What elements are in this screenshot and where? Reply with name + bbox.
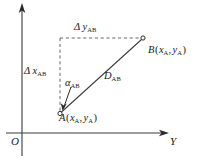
origin-label: O (11, 136, 19, 147)
delta-y-symbol: Δ y (74, 21, 87, 32)
point-b-marker (141, 36, 145, 40)
coordinate-geometry-figure: O Y Δ yAB Δ xAB DAB αAB B(xA,yA) A(xA,yA… (0, 0, 198, 160)
point-b-close-paren: ) (182, 44, 187, 55)
angle-subscript: AB (71, 82, 80, 89)
distance-line-ab (62, 40, 142, 113)
point-a-label: A(xA,yA) (59, 113, 97, 124)
delta-y-label: Δ yAB (74, 22, 97, 33)
figure-canvas (0, 0, 198, 160)
delta-x-symbol: Δ x (24, 65, 37, 76)
horizontal-axis (6, 130, 169, 137)
distance-subscript: AB (112, 75, 121, 82)
y-axis-label: Y (170, 136, 176, 147)
distance-symbol: D (104, 70, 112, 81)
delta-x-label: Δ xAB (24, 66, 47, 77)
distance-label: DAB (104, 71, 121, 82)
angle-label: αAB (65, 78, 80, 89)
point-a-close-paren: ) (93, 112, 98, 123)
point-b-label: B(xA,yA) (148, 45, 186, 56)
delta-x-subscript: AB (37, 70, 46, 77)
angle-indicator (61, 87, 71, 111)
delta-y-subscript: AB (87, 26, 96, 33)
